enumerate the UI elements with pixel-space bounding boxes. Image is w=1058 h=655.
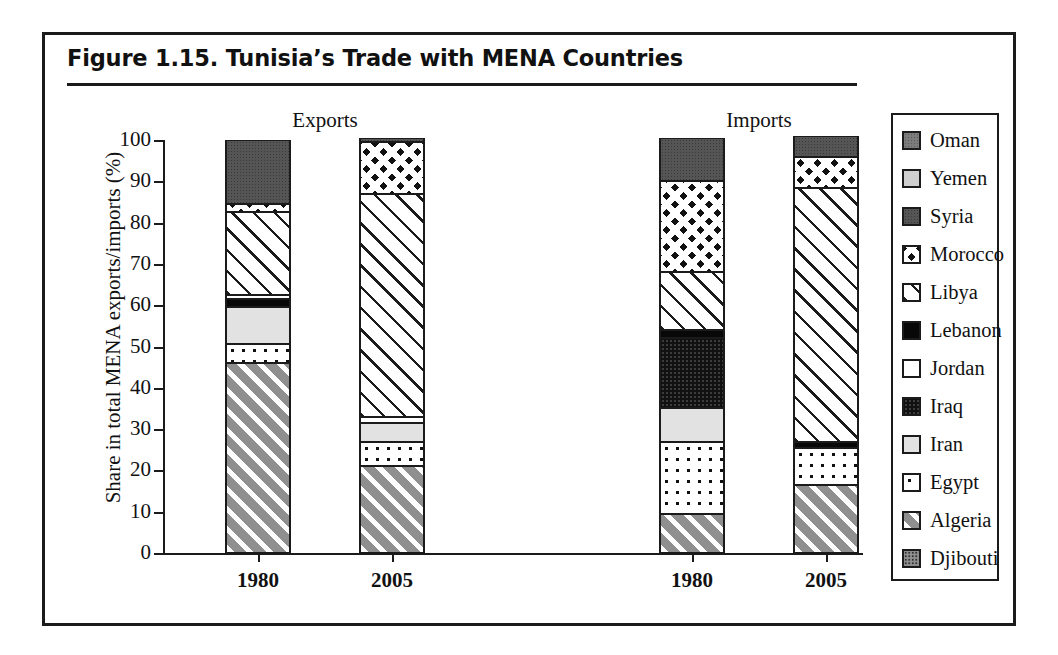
y-tick-label-80: 80 xyxy=(130,212,151,233)
y-tick-10 xyxy=(154,512,163,514)
legend-label-jordan: Jordan xyxy=(930,358,985,378)
segment-iran xyxy=(361,423,423,442)
legend-label-syria: Syria xyxy=(930,206,973,226)
chart-legend: OmanYemenSyriaMoroccoLibyaLebanonJordanI… xyxy=(891,113,999,581)
group-label-imports: Imports xyxy=(689,108,829,133)
y-tick-label-10: 10 xyxy=(130,501,151,522)
segment-lebanon xyxy=(227,299,289,307)
segment-egypt xyxy=(361,442,423,467)
x-tick-2 xyxy=(692,553,694,562)
y-tick-70 xyxy=(154,264,163,266)
y-axis-line xyxy=(163,140,165,555)
legend-swatch-oman xyxy=(902,131,921,150)
x-tick-1 xyxy=(392,553,394,562)
segment-syria xyxy=(361,138,423,142)
y-tick-label-40: 40 xyxy=(130,377,151,398)
figure-frame: Figure 1.15. Tunisia’s Trade with MENA C… xyxy=(42,32,1016,626)
legend-item-djibouti[interactable]: Djibouti xyxy=(893,539,997,577)
y-tick-label-50: 50 xyxy=(130,336,151,357)
segment-algeria xyxy=(227,363,289,553)
y-tick-100 xyxy=(154,140,163,142)
category-label-exports-2005: 2005 xyxy=(332,568,452,593)
legend-label-algeria: Algeria xyxy=(930,510,991,530)
bar-exports-1980 xyxy=(225,140,291,553)
bar-exports-2005 xyxy=(359,138,425,553)
segment-syria xyxy=(795,136,857,157)
category-label-imports-2005: 2005 xyxy=(766,568,886,593)
y-tick-90 xyxy=(154,181,163,183)
legend-item-jordan[interactable]: Jordan xyxy=(893,349,997,387)
legend-swatch-morocco xyxy=(902,245,921,264)
segment-iraq xyxy=(661,338,723,408)
legend-label-lebanon: Lebanon xyxy=(930,320,1002,340)
y-tick-label-30: 30 xyxy=(130,418,151,439)
legend-swatch-iraq xyxy=(902,397,921,416)
y-tick-label-70: 70 xyxy=(130,253,151,274)
legend-label-oman: Oman xyxy=(930,130,980,150)
y-tick-80 xyxy=(154,223,163,225)
segment-algeria xyxy=(795,485,857,553)
legend-item-iraq[interactable]: Iraq xyxy=(893,387,997,425)
legend-swatch-djibouti xyxy=(902,549,921,568)
segment-libya xyxy=(661,272,723,330)
segment-egypt xyxy=(227,344,289,363)
bar-imports-1980 xyxy=(659,138,725,553)
legend-item-yemen[interactable]: Yemen xyxy=(893,159,997,197)
y-tick-40 xyxy=(154,388,163,390)
legend-item-libya[interactable]: Libya xyxy=(893,273,997,311)
legend-swatch-lebanon xyxy=(902,321,921,340)
x-tick-0 xyxy=(258,553,260,562)
x-tick-3 xyxy=(826,553,828,562)
y-tick-20 xyxy=(154,470,163,472)
segment-jordan xyxy=(227,295,289,299)
y-tick-30 xyxy=(154,429,163,431)
segment-jordan xyxy=(361,417,423,423)
segment-egypt xyxy=(661,442,723,514)
legend-label-djibouti: Djibouti xyxy=(930,548,998,568)
figure-title: Figure 1.15. Tunisia’s Trade with MENA C… xyxy=(67,45,683,71)
segment-algeria xyxy=(661,514,723,553)
y-tick-label-0: 0 xyxy=(141,542,152,563)
legend-item-syria[interactable]: Syria xyxy=(893,197,997,235)
segment-algeria xyxy=(361,466,423,553)
segment-iran xyxy=(227,307,289,344)
legend-swatch-libya xyxy=(902,283,921,302)
legend-item-egypt[interactable]: Egypt xyxy=(893,463,997,501)
segment-lebanon xyxy=(661,330,723,338)
legend-item-morocco[interactable]: Morocco xyxy=(893,235,997,273)
legend-item-lebanon[interactable]: Lebanon xyxy=(893,311,997,349)
segment-morocco xyxy=(361,142,423,194)
legend-item-iran[interactable]: Iran xyxy=(893,425,997,463)
category-label-exports-1980: 1980 xyxy=(198,568,318,593)
legend-label-iraq: Iraq xyxy=(930,396,963,416)
y-axis-title: Share in total MENA exports/imports (%) xyxy=(101,78,126,578)
bar-imports-2005 xyxy=(793,136,859,553)
y-tick-label-60: 60 xyxy=(130,294,151,315)
legend-swatch-jordan xyxy=(902,359,921,378)
legend-label-egypt: Egypt xyxy=(930,472,979,492)
segment-libya xyxy=(227,212,289,295)
legend-swatch-syria xyxy=(902,207,921,226)
y-tick-50 xyxy=(154,347,163,349)
segment-morocco xyxy=(795,157,857,188)
segment-morocco xyxy=(661,181,723,272)
segment-iran xyxy=(661,408,723,441)
legend-swatch-algeria xyxy=(902,511,921,530)
chart-plot-area: 0102030405060708090100 Share in total ME… xyxy=(163,140,863,555)
legend-label-morocco: Morocco xyxy=(930,244,1004,264)
legend-swatch-egypt xyxy=(902,473,921,492)
y-tick-0 xyxy=(154,553,163,555)
y-tick-label-90: 90 xyxy=(130,170,151,191)
group-label-exports: Exports xyxy=(255,108,395,133)
y-tick-label-20: 20 xyxy=(130,459,151,480)
segment-libya xyxy=(795,188,857,442)
segment-syria xyxy=(661,138,723,181)
category-label-imports-1980: 1980 xyxy=(632,568,752,593)
segment-morocco xyxy=(227,204,289,212)
legend-item-oman[interactable]: Oman xyxy=(893,121,997,159)
legend-label-yemen: Yemen xyxy=(930,168,987,188)
legend-item-algeria[interactable]: Algeria xyxy=(893,501,997,539)
segment-lebanon xyxy=(795,442,857,448)
legend-swatch-yemen xyxy=(902,169,921,188)
x-axis-line xyxy=(163,553,863,555)
